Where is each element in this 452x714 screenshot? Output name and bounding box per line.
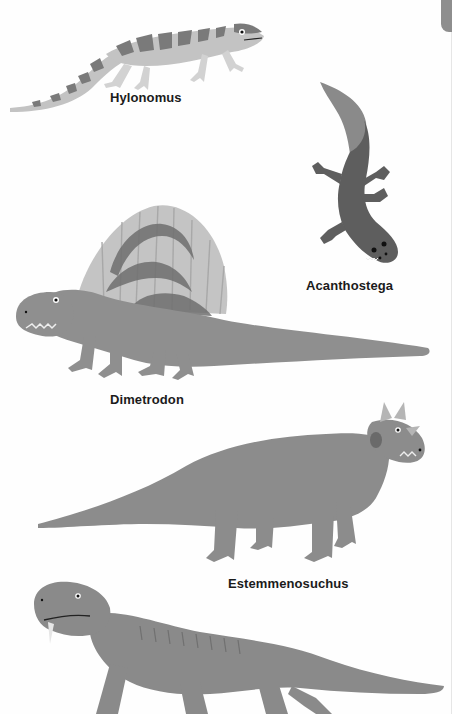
dimetrodon-illustration [14, 196, 434, 386]
therapsid-illustration [30, 574, 446, 714]
estemmenosuchus-illustration [36, 400, 432, 568]
label-hylonomus: Hylonomus [110, 90, 182, 105]
page-edge-tab[interactable] [441, 0, 452, 32]
book-page: Hylonomus Acanthostega [0, 0, 452, 714]
